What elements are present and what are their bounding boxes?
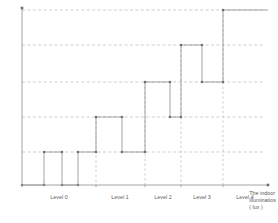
data-marker-3 bbox=[61, 151, 63, 153]
x-axis-caption-line-2: illuminatios bbox=[249, 197, 276, 204]
data-marker-14 bbox=[169, 116, 171, 118]
x-axis-arrow bbox=[267, 184, 270, 187]
data-marker-8 bbox=[95, 116, 97, 118]
data-marker-7 bbox=[95, 151, 97, 153]
x-axis-caption-line-1: The indoor bbox=[249, 190, 276, 197]
data-marker-10 bbox=[121, 151, 123, 153]
vertical-band-separators bbox=[96, 10, 223, 185]
x-axis-caption-line-3: ( lux ) bbox=[249, 204, 276, 211]
data-marker-2 bbox=[43, 151, 45, 153]
data-marker-12 bbox=[144, 81, 146, 83]
level-label-3: Level 3 bbox=[182, 194, 222, 200]
data-marker-20 bbox=[222, 9, 224, 11]
data-marker-17 bbox=[201, 44, 203, 46]
level-label-1: Level 1 bbox=[100, 194, 140, 200]
data-marker-6 bbox=[77, 151, 79, 153]
data-marker-13 bbox=[169, 81, 171, 83]
level-label-0: Level 0 bbox=[39, 194, 79, 200]
x-axis-caption: The indoor illuminatios ( lux ) bbox=[249, 190, 276, 210]
chart-canvas bbox=[0, 0, 278, 223]
data-marker-16 bbox=[180, 44, 182, 46]
y-axis-arrow bbox=[21, 7, 24, 10]
data-marker-19 bbox=[222, 81, 224, 83]
horizontal-gridlines bbox=[22, 10, 263, 152]
data-marker-15 bbox=[180, 116, 182, 118]
data-point-markers bbox=[21, 9, 224, 186]
data-marker-9 bbox=[121, 116, 123, 118]
data-marker-11 bbox=[144, 151, 146, 153]
step-chart-figure: Level 0Level 1Level 2Level 3Level 4 The … bbox=[0, 0, 278, 223]
step-function-line bbox=[22, 10, 268, 185]
step-polyline bbox=[22, 10, 268, 185]
data-marker-18 bbox=[201, 81, 203, 83]
level-label-2: Level 2 bbox=[143, 194, 183, 200]
